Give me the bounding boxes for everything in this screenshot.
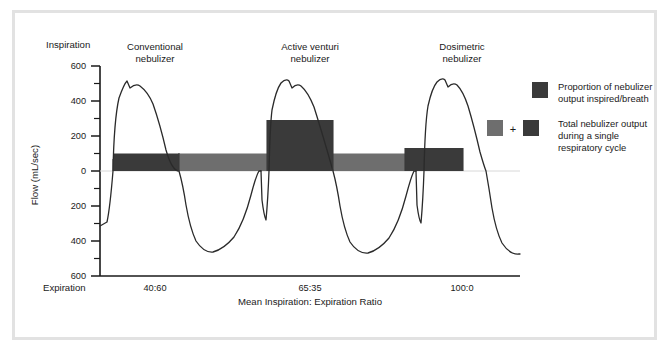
chart-legend: Proportion of nebulizer output inspired/… (487, 81, 652, 153)
y-tick-label-400-bottom: 400 (71, 236, 86, 246)
panel-title-line2-active-venturi: nebulizer (291, 53, 331, 64)
panel-title-line1-conventional: Conventional (127, 41, 183, 52)
x-tick-label-conventional: 40:60 (144, 283, 167, 293)
y-tick-label-600-top: 600 (71, 61, 86, 71)
panel-active-venturi: Active venturi nebulizer (261, 41, 416, 253)
legend-label-total-line3: respiratory cycle (558, 142, 626, 153)
panel-title-line2-dosimetric: nebulizer (443, 53, 483, 64)
inspiration-label: Inspiration (46, 39, 90, 50)
bar-dark-conventional (113, 154, 179, 172)
legend-entry-total-output: + Total nebulizer output during a single… (487, 118, 648, 153)
y-tick-label-200-bottom: 200 (71, 201, 86, 211)
legend-entry-proportion: Proportion of nebulizer output inspired/… (532, 81, 652, 104)
legend-swatch-dark-2-icon (523, 120, 539, 136)
legend-plus-icon: + (510, 123, 516, 135)
legend-swatch-light-icon (487, 120, 503, 136)
y-axis-title: Flow (mL/sec) (29, 145, 40, 205)
x-tick-label-dosimetric: 100:0 (451, 283, 474, 293)
bar-light-conventional (179, 154, 278, 172)
y-tick-label-400-top: 400 (71, 96, 86, 106)
y-axis-major-ticks (91, 66, 100, 276)
figure-container: 600 400 200 0 200 400 600 Inspiration Ex… (0, 0, 669, 350)
y-tick-label-200-top: 200 (71, 131, 86, 141)
legend-label-total-line2: during a single (558, 130, 619, 141)
bar-dark-active-venturi (267, 120, 333, 171)
panel-conventional: Conventional nebulizer (100, 41, 278, 252)
panel-title-line1-active-venturi: Active venturi (281, 41, 339, 52)
bar-light-active-venturi (333, 154, 416, 172)
x-tick-label-active-venturi: 65:35 (299, 283, 322, 293)
respiratory-flow-chart: 600 400 200 0 200 400 600 Inspiration Ex… (0, 0, 669, 350)
y-tick-label-0: 0 (81, 166, 86, 176)
panel-title-line1-dosimetric: Dosimetric (439, 41, 485, 52)
legend-label-proportion-line1: Proportion of nebulizer (558, 81, 652, 92)
panel-title-line2-conventional: nebulizer (136, 53, 176, 64)
legend-swatch-dark-icon (532, 82, 548, 98)
bar-dark-dosimetric (405, 148, 463, 171)
x-axis-title: Mean Inspiration: Expiration Ratio (238, 296, 382, 307)
legend-label-total-line1: Total nebulizer output (558, 118, 648, 129)
expiration-label: Expiration (43, 282, 86, 293)
y-tick-label-600-bottom: 600 (71, 271, 86, 281)
legend-label-proportion-line2: output inspired/breath (558, 93, 649, 104)
panel-dosimetric: Dosimetric nebulizer (405, 41, 520, 254)
